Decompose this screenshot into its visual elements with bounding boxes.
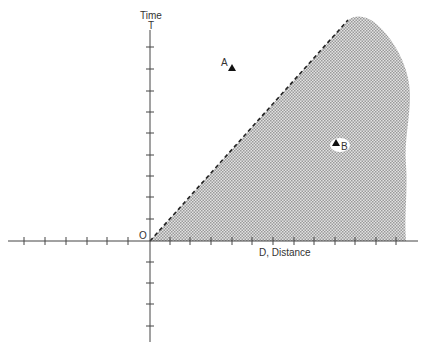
- shaded-region: [150, 16, 410, 241]
- point-a: A: [221, 57, 236, 71]
- y-axis-end-label: T: [148, 20, 154, 31]
- point-b: B: [330, 138, 350, 152]
- point-a-triangle-icon: [228, 64, 236, 71]
- point-a-label: A: [221, 57, 228, 68]
- space-time-diagram: Time T O D, Distance A B: [0, 0, 426, 355]
- point-b-label: B: [341, 141, 348, 152]
- origin-label: O: [139, 230, 147, 241]
- x-axis-label: D, Distance: [259, 247, 311, 258]
